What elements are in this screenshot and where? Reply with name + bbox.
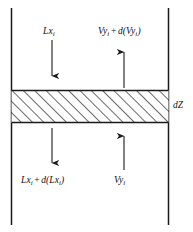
vapor-out-base1: Vy xyxy=(98,26,107,36)
liquid-in-base: Lx xyxy=(43,26,53,36)
liquid-in-sub: i xyxy=(53,30,55,38)
vapor-out-base2: d(Vy xyxy=(118,26,135,36)
vapor-out-close: ) xyxy=(137,26,140,36)
liquid-out-sub1: i xyxy=(31,179,33,187)
liquid-out-operator: + xyxy=(33,175,41,185)
vapor-out-label: Vyi+d(Vyi) xyxy=(98,27,141,37)
column-element-diagram: Lxi Vyi+d(Vyi) Lxi+d(Lxi) Vyi dZ xyxy=(0,0,193,232)
hatched-element-fill xyxy=(12,90,169,123)
vapor-in-label: Vyi xyxy=(114,176,125,186)
liquid-out-label: Lxi+d(Lxi) xyxy=(21,176,64,186)
liquid-out-base1: Lx xyxy=(21,175,31,185)
vapor-in-base: Vy xyxy=(114,175,123,185)
liquid-in-label: Lxi xyxy=(43,27,55,37)
liquid-out-sub2: i xyxy=(59,179,61,187)
diagram-canvas xyxy=(0,0,193,232)
vapor-out-operator: + xyxy=(109,26,117,36)
height-element-label: dZ xyxy=(173,101,183,111)
liquid-out-close: ) xyxy=(61,175,64,185)
liquid-out-base2: d(Lx xyxy=(41,175,59,185)
